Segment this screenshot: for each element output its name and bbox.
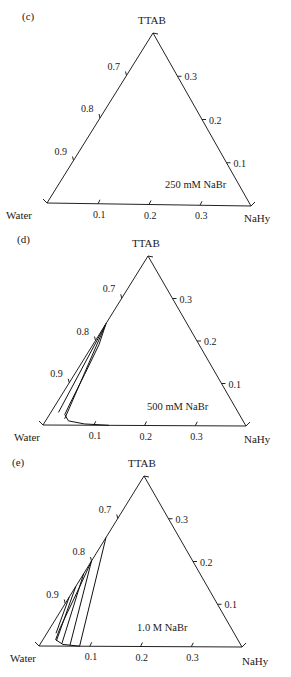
left-axis-tick <box>91 557 92 561</box>
left-tick-label: 0.8 <box>81 103 94 114</box>
right-tick-label: 0.1 <box>229 379 242 390</box>
left-tick-label: 0.9 <box>55 146 68 157</box>
panel-label: (e) <box>12 456 25 469</box>
bottom-tick-label: 0.2 <box>140 431 153 442</box>
vertex-label-right: NaHy <box>242 655 269 667</box>
ternary-panel-d: (d)TTABWaterNaHy0.10.20.30.70.80.90.30.2… <box>14 233 271 445</box>
vertex-tick <box>43 199 47 203</box>
vertex-tick <box>35 642 39 646</box>
bottom-axis-tick <box>90 642 92 646</box>
left-axis-tick <box>126 72 127 76</box>
phase-boundary-curve <box>65 324 109 426</box>
bottom-axis-tick <box>98 200 100 204</box>
left-tick-label: 0.8 <box>73 546 86 557</box>
bottom-tick-label: 0.3 <box>186 652 199 663</box>
left-axis-tick <box>117 515 118 519</box>
vertex-tick <box>251 202 255 206</box>
vertex-tick <box>39 421 43 425</box>
left-axis-tick <box>64 600 65 604</box>
tie-line <box>65 324 106 419</box>
left-tick-label: 0.7 <box>108 61 121 72</box>
right-tick-label: 0.1 <box>225 599 238 610</box>
left-tick-label: 0.9 <box>46 589 59 600</box>
left-tick-label: 0.7 <box>99 504 112 515</box>
right-tick-label: 0.2 <box>200 557 213 568</box>
left-tick-label: 0.8 <box>77 326 90 337</box>
vertex-label-left: Water <box>10 652 36 664</box>
bottom-tick-label: 0.1 <box>89 430 102 441</box>
left-axis-tick <box>95 337 96 341</box>
bottom-axis-tick <box>191 643 193 647</box>
bottom-tick-label: 0.2 <box>144 210 157 221</box>
vertex-tick <box>242 643 246 647</box>
left-tick-label: 0.7 <box>103 283 116 294</box>
ternary-panel-e: (e)TTABWaterNaHy0.10.20.30.70.80.90.30.2… <box>10 456 269 667</box>
left-axis-tick <box>68 379 69 383</box>
bottom-axis-tick <box>200 201 202 205</box>
vertex-label-left: Water <box>6 209 32 221</box>
right-tick-label: 0.3 <box>176 514 189 525</box>
vertex-label-left: Water <box>14 431 40 443</box>
bottom-axis-tick <box>145 422 147 426</box>
salt-concentration-label: 500 mM NaBr <box>147 401 209 412</box>
right-tick-label: 0.2 <box>204 336 217 347</box>
left-axis-tick <box>121 294 122 298</box>
ternary-panel-c: (c)TTABWaterNaHy0.10.20.30.70.80.90.30.2… <box>6 10 271 224</box>
bottom-axis-tick <box>149 201 151 205</box>
right-tick-label: 0.3 <box>185 71 198 82</box>
vertex-label-right: NaHy <box>244 212 271 224</box>
right-tick-label: 0.3 <box>180 294 193 305</box>
left-tick-label: 0.9 <box>50 368 63 379</box>
bottom-tick-label: 0.3 <box>190 431 203 442</box>
bottom-tick-label: 0.3 <box>195 210 208 221</box>
bottom-tick-label: 0.1 <box>85 651 98 662</box>
vertex-label-top: TTAB <box>138 14 166 26</box>
bottom-axis-tick <box>141 643 143 647</box>
panel-label: (c) <box>22 10 35 23</box>
ternary-phase-diagrams: (c)TTABWaterNaHy0.10.20.30.70.80.90.30.2… <box>0 0 291 677</box>
bottom-axis-tick <box>195 422 197 426</box>
left-axis-tick <box>99 114 100 118</box>
left-axis-tick <box>73 157 74 161</box>
tie-line <box>70 561 92 645</box>
right-tick-label: 0.1 <box>234 158 247 169</box>
bottom-tick-label: 0.2 <box>136 652 149 663</box>
salt-concentration-label: 250 mM NaBr <box>165 179 227 190</box>
panel-label: (d) <box>17 233 30 246</box>
salt-concentration-label: 1.0 M NaBr <box>137 622 188 633</box>
vertex-label-right: NaHy <box>244 433 271 445</box>
vertex-label-top: TTAB <box>132 237 160 249</box>
vertex-tick <box>246 422 250 426</box>
right-tick-label: 0.2 <box>209 115 222 126</box>
vertex-label-top: TTAB <box>128 457 156 469</box>
bottom-tick-label: 0.1 <box>93 209 106 220</box>
phase-boundary-curve <box>56 561 92 646</box>
tie-line <box>58 324 106 413</box>
